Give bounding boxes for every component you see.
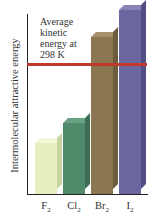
- x-label-br2: Br2: [89, 200, 115, 214]
- x-axis: [27, 194, 148, 195]
- bar-i2: [119, 10, 141, 194]
- kinetic-energy-line: [27, 63, 147, 66]
- y-axis: [27, 14, 28, 195]
- kinetic-energy-annotation: Average kinetic energy at 298 K: [40, 16, 77, 60]
- x-label-i2: I2: [117, 200, 143, 214]
- y-axis-label: Intermolecular attractive energy: [9, 26, 20, 186]
- x-label-cl2: Cl2: [61, 200, 87, 214]
- bar-br2: [91, 37, 113, 194]
- x-label-f2: F2: [33, 200, 59, 214]
- bar-cl2: [63, 123, 85, 194]
- bar-f2: [35, 143, 57, 194]
